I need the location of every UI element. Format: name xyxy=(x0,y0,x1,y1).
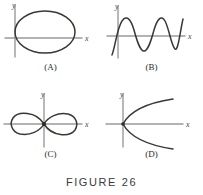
plot-sine: x y xyxy=(101,0,202,66)
x-axis-label: x xyxy=(84,120,89,129)
plot-ellipse: x y xyxy=(0,0,101,66)
origin-node-dot xyxy=(42,122,46,126)
figure-panel-grid: x y (A) x y (B) x y (C) xyxy=(0,0,203,175)
panel-label-d: (D) xyxy=(101,149,202,159)
plot-lemniscate: x y xyxy=(0,87,101,153)
figure-panel-b: x y (B) xyxy=(101,0,202,87)
x-axis-label: x xyxy=(187,32,192,41)
panel-label-b: (B) xyxy=(101,62,202,72)
y-axis-label: y xyxy=(114,2,119,11)
vertex-dot xyxy=(121,122,125,126)
figure-caption: FIGURE 26 xyxy=(0,176,203,188)
x-axis-label: x xyxy=(84,34,89,43)
figure-panel-d: x y (D) xyxy=(101,87,202,174)
y-axis-label: y xyxy=(11,1,16,10)
y-axis-label: y xyxy=(119,90,124,99)
figure-panel-a: x y (A) xyxy=(0,0,101,87)
x-axis-label: x xyxy=(185,120,190,129)
figure-panel-c: x y (C) xyxy=(0,87,101,174)
panel-label-c: (C) xyxy=(0,149,101,159)
panel-label-a: (A) xyxy=(0,62,101,72)
ellipse-curve xyxy=(15,11,75,53)
plot-parabola: x y xyxy=(101,87,202,153)
y-axis-label: y xyxy=(40,90,45,99)
